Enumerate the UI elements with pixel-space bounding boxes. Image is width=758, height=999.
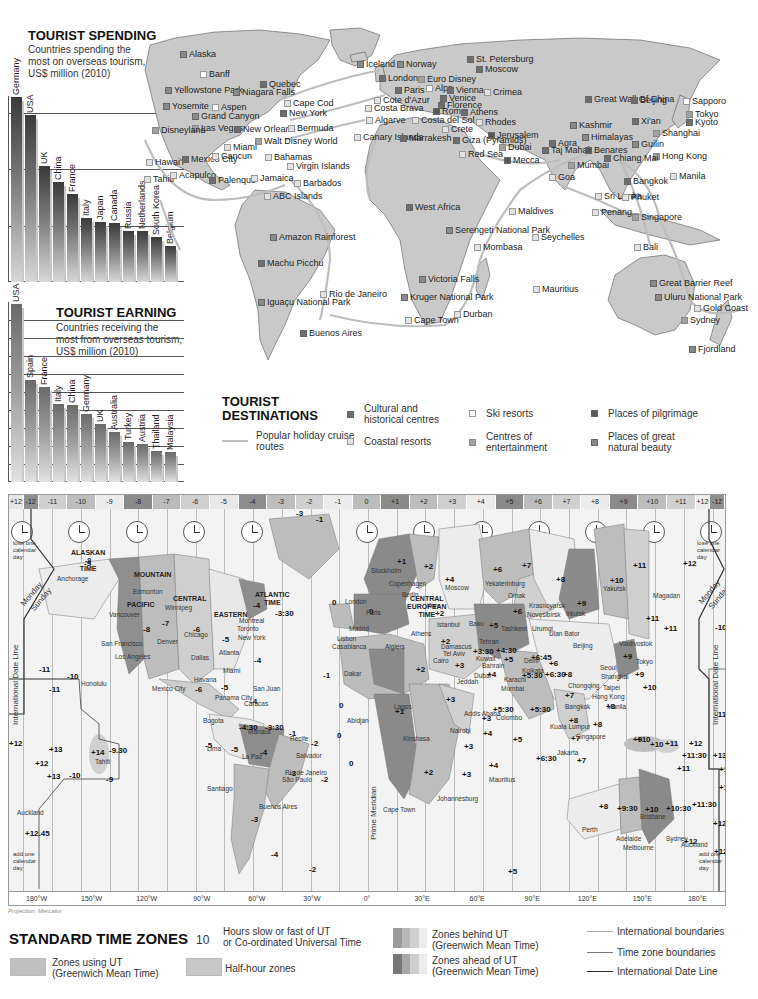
city-label: Bahrain [482,662,504,669]
bar [151,451,162,482]
legend-nature: Places of greatnatural beauty [589,431,675,453]
zone-header-cell: +7 [553,495,582,509]
half-hour-label: Half-hour zones [225,963,296,974]
destination-new-york: New York [278,109,327,118]
destination-label: Kruger National Park [410,292,494,302]
destination-costa-brava: Costa Brava [363,104,424,113]
zone-offset-label: +8 [593,720,602,729]
legend-cruise-routes: Popular holiday cruise routes [222,430,356,452]
city-label: Casablanca [332,643,366,650]
zone-offset-label: +4:30 [496,646,517,655]
date-line-label-left: International Date Line [11,645,20,726]
city-label: Chicago [184,631,208,638]
zone-offset-label: +5:30 [530,705,551,714]
city-label: Damascus [441,643,472,650]
zone-offset-label: +11:30 [682,751,707,760]
entertainment-marker-icon [681,317,688,324]
cultural-marker-icon [209,177,216,184]
legend-pilgrimage: Places of pilgrimage [589,408,698,419]
destination-label: Niagara Falls [242,87,295,97]
zone-offset-label: +2 [416,665,425,674]
add-day-note-left: add one calendar day [13,851,39,872]
zone-header-cell: -10 [67,495,96,509]
legend-ski: Ski resorts [467,408,533,419]
city-label: Kinshasa [403,735,430,742]
bar [81,414,92,482]
coastal-marker-icon [405,317,412,324]
pilgrimage-marker-icon [585,147,592,154]
entertainment-marker-icon [469,439,476,446]
cultural-marker-icon [585,96,592,103]
ski-marker-icon [469,410,476,417]
ski-marker-icon [683,98,690,105]
bar-label: China [67,379,77,403]
city-label: Perth [582,826,598,833]
nature-marker-icon [446,227,453,234]
city-label: Havana [194,676,216,683]
coastal-marker-icon [146,159,153,166]
zone-header-cell: +5 [496,495,525,509]
zone-offset-label: +1 [397,557,406,566]
zone-header-cell: -3 [267,495,296,509]
city-label: Yakutsk [603,585,626,592]
city-label: Kiev [427,602,440,609]
destinations-title: TOURIST DESTINATIONS [222,395,318,423]
destination-amazon-rainforest: Amazon Rainforest [268,233,356,242]
city-label: Addis Ababa [464,710,501,717]
coastal-marker-icon [287,163,294,170]
zone-header-cell: -7 [153,495,182,509]
destination-cancun: Cancun [210,152,252,161]
city-label: Lima [207,745,221,752]
city-label: Singapore [576,733,606,740]
destination-west-africa: West Africa [404,203,460,212]
destination-label: Bangkok [633,176,668,186]
zone-offset-label: +12 [719,765,726,774]
coastal-marker-icon [251,175,258,182]
city-label: La Paz [242,753,262,760]
city-label: Jeddah [457,678,478,685]
bar [123,442,134,482]
coastal-marker-icon [592,209,599,216]
city-label: Tokyo [636,658,653,665]
destination-kruger-national-park: Kruger National Park [399,293,494,302]
destination-label: Virgin Islands [296,161,350,171]
city-label: London [345,598,367,605]
city-label: Hong Kong [592,693,625,700]
zone-offset-label: +7 [577,756,586,765]
destination-marrakesh: Marrakesh [398,134,452,143]
longitude-label: 30°E [395,892,450,905]
destination-rio-de-janeiro: Rio de Janeiro [318,290,387,299]
destination-disneyland: Disneyland [150,126,206,135]
entertainment-marker-icon [568,162,575,169]
city-label: Abidjan [347,717,369,724]
destination-label: ABC Islands [273,191,323,201]
bar [39,387,50,482]
coastal-marker-icon [264,193,271,200]
city-label: Moscow [445,584,469,591]
city-label: Omak [508,592,525,599]
longitude-label: 60°E [450,892,505,905]
lose-day-note-right: lose one calendar day [697,540,723,561]
destination-mauritius: Mauritius [531,285,579,294]
longitude-label: 180°E [670,892,725,905]
destination-label: Yosemite [172,101,209,111]
behind-ut-swatch [393,928,427,948]
destination-label: London [388,73,418,83]
coastal-marker-icon [294,180,301,187]
destination-bermuda: Bermuda [286,124,334,133]
city-label: Istanbul [437,621,460,628]
destination-mombasa: Mombasa [472,243,523,252]
destination-label: Kashmir [579,120,612,130]
city-label: Karachi [504,676,526,683]
destination-label: Singapore [641,212,682,222]
destination-label: Himalayas [591,132,633,142]
zone-offset-label: -9 [106,775,113,784]
bar-label: Italy [53,385,63,402]
zone-offset-label: +9:30 [617,804,638,813]
destination-label: Moscow [485,64,518,74]
bar [109,432,120,482]
zone-header-cell: +4 [467,495,496,509]
city-label: Rio de Janeiro [285,769,327,776]
longitude-label: 180°W [9,892,64,905]
nature-marker-icon [192,113,199,120]
